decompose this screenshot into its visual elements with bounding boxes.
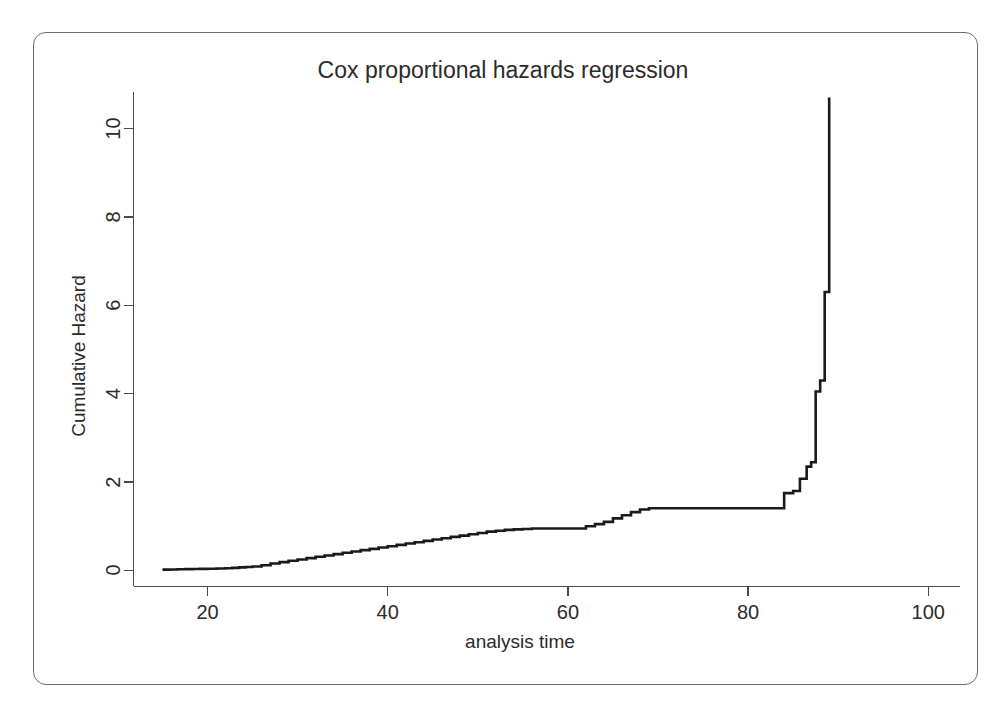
y-axis-ticks [124,129,134,571]
x-tick-label-80: 80 [737,601,759,623]
y-tick-label-6: 6 [102,300,124,311]
chart-title: Cox proportional hazards regression [318,57,689,83]
x-tick-label-60: 60 [557,601,579,623]
y-axis-tick-labels: 0 2 4 6 8 10 [102,117,124,575]
x-tick-label-100: 100 [912,601,945,623]
cumulative-hazard-step-curve [162,98,829,570]
figure-page: Cox proportional hazards regression 0 2 … [0,0,1007,706]
cumulative-hazard-chart: Cox proportional hazards regression 0 2 … [0,0,1007,706]
y-tick-label-8: 8 [102,211,124,222]
x-tick-label-20: 20 [196,601,218,623]
x-axis-ticks [208,587,929,597]
x-axis-tick-labels: 20 40 60 80 100 [196,601,945,623]
y-tick-label-2: 2 [102,477,124,488]
x-axis-title: analysis time [465,631,575,652]
y-tick-label-10: 10 [102,117,124,139]
y-tick-label-0: 0 [102,564,124,575]
x-tick-label-40: 40 [377,601,399,623]
y-tick-label-4: 4 [102,388,124,399]
y-axis-title: Cumulative Hazard [68,275,89,437]
